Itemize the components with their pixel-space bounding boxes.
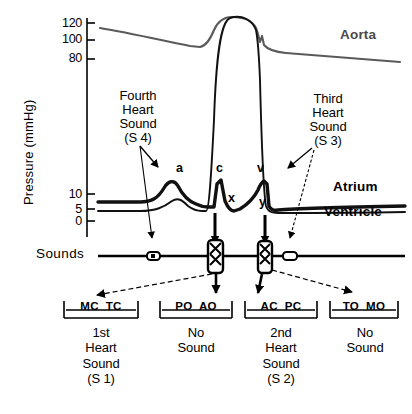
phase-caption-1: 1st Heart Sound (S 1) (62, 325, 140, 386)
phase-valves-2: PO AO (160, 300, 232, 312)
phase-caption-2: No Sound (158, 325, 234, 356)
phase-valves-4: TO MO (330, 300, 398, 312)
phase-caption-3: 2nd Heart Sound (S 2) (243, 325, 319, 386)
phase-valves-3: AC PC (245, 300, 317, 312)
cardiac-cycle-figure: Pressure (mmHg) 120 100 80 10 5 0 Aorta … (0, 0, 412, 414)
phase-caption-4: No Sound (330, 325, 400, 356)
